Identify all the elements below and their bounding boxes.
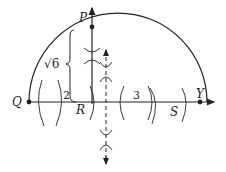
point-Q (27, 100, 32, 105)
diagram-canvas: P Q R S Y 2 3 √6 (0, 0, 226, 172)
label-P: P (79, 12, 87, 24)
construction-figure (0, 0, 226, 172)
label-Y: Y (196, 88, 204, 100)
label-QR-length: 2 (63, 90, 70, 101)
label-RS-length: 3 (133, 90, 140, 101)
label-PR-length: √6 (44, 58, 59, 70)
construction-arcs (38, 48, 186, 150)
label-R: R (76, 104, 85, 116)
label-S: S (170, 106, 178, 118)
point-P (90, 25, 95, 30)
label-Q: Q (12, 96, 22, 108)
